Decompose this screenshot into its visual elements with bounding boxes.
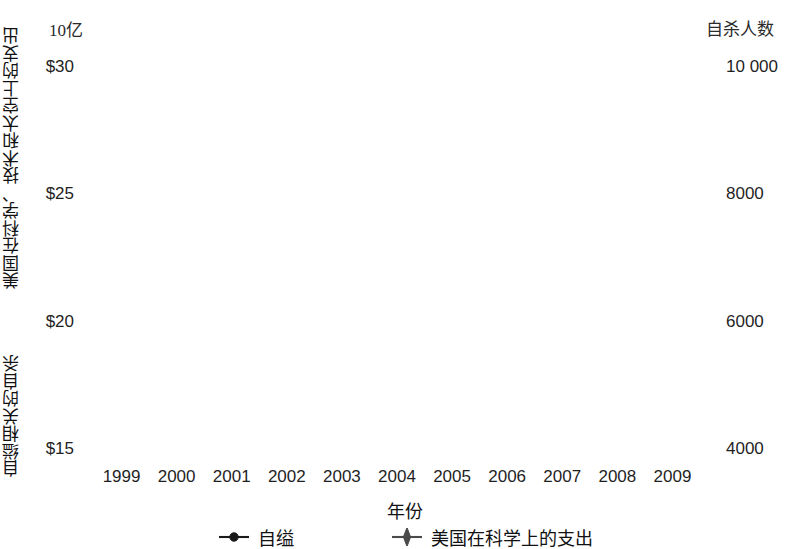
legend-circle-marker-icon [217,528,251,546]
x-axis-tick-label: 2005 [425,467,480,487]
legend-label: 自缢 [258,524,294,549]
legend-item[interactable]: 自缢 [217,524,294,549]
x-axis-tick-label: 2001 [204,467,259,487]
chart-canvas: 10亿 自杀人数 美国在科学、技术和太空上的支出 自缢相关的自杀 年份 $15$… [0,0,810,549]
x-axis-tick-label: 2003 [314,467,369,487]
data-point-diamond [403,528,410,546]
x-axis-tick-label: 1999 [94,467,149,487]
x-axis-title: 年份 [0,497,810,523]
x-axis-tick-label: 2004 [369,467,424,487]
y-axis-right-title: 自缢相关的自杀 [0,316,24,516]
y-axis-right-tick-label: 10 000 [726,57,806,77]
legend-label: 美国在科学上的支出 [431,524,593,549]
y-axis-left-tick-label: $25 [14,184,74,204]
y-axis-left-tick-label: $15 [14,439,74,459]
x-axis-tick-label: 2007 [535,467,590,487]
data-point-circle [230,533,238,541]
y-axis-right-tick-label: 8000 [726,184,806,204]
left-axis-unit-note: 10亿 [49,16,83,41]
y-axis-left-title: 美国在科学、技术和太空上的支出 [0,0,24,316]
x-axis-tick-label: 2008 [590,467,645,487]
chart-legend: 自缢美国在科学上的支出 [0,524,810,549]
right-axis-unit-note: 自杀人数 [706,15,774,40]
y-axis-right-tick-label: 6000 [726,312,806,332]
y-axis-right-tick-label: 4000 [726,439,806,459]
x-axis-tick-label: 2002 [259,467,314,487]
y-axis-left-tick-label: $20 [14,312,74,332]
x-axis-tick-label: 2009 [645,467,700,487]
legend-item[interactable]: 美国在科学上的支出 [390,524,593,549]
legend-diamond-marker-icon [390,528,424,546]
x-axis-tick-label: 2000 [149,467,204,487]
x-axis-tick-label: 2006 [480,467,535,487]
y-axis-left-tick-label: $30 [14,57,74,77]
